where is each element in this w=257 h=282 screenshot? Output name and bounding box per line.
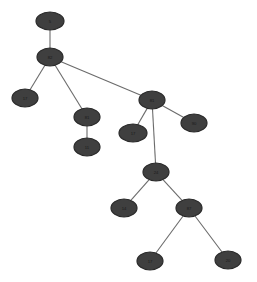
tree-edge (156, 216, 183, 253)
node-ellipse[interactable] (215, 251, 241, 269)
node-ellipse[interactable] (36, 12, 64, 30)
tree-edge (163, 180, 182, 201)
tree-edge (131, 180, 149, 201)
node-ellipse[interactable] (74, 138, 100, 156)
diagram-canvas: 5821781118117902414871720 (0, 0, 257, 282)
tree-node[interactable]: 14 (111, 199, 137, 217)
tree-node[interactable]: 81 (139, 91, 165, 109)
tree-node[interactable]: 87 (176, 199, 202, 217)
node-ellipse[interactable] (181, 114, 207, 132)
tree-node[interactable]: 90 (181, 114, 207, 132)
tree-node[interactable]: 82 (37, 48, 63, 66)
tree-edge (30, 65, 45, 89)
tree-edge (61, 62, 141, 96)
tree-node[interactable]: 17 (12, 89, 38, 107)
tree-edge (195, 216, 222, 252)
node-ellipse[interactable] (12, 89, 38, 107)
tree-graph: 5821781118117902414871720 (0, 0, 257, 282)
tree-edge (152, 109, 155, 163)
tree-node[interactable]: 5 (36, 12, 64, 30)
tree-node[interactable]: 81 (74, 108, 100, 126)
tree-node[interactable]: 17 (119, 124, 147, 142)
node-ellipse[interactable] (111, 199, 137, 217)
node-ellipse[interactable] (139, 91, 165, 109)
node-ellipse[interactable] (37, 48, 63, 66)
tree-node[interactable]: 24 (143, 163, 169, 181)
node-ellipse[interactable] (137, 252, 163, 270)
node-ellipse[interactable] (74, 108, 100, 126)
node-ellipse[interactable] (119, 124, 147, 142)
tree-edge (55, 65, 82, 108)
tree-edge (138, 108, 147, 124)
tree-node[interactable]: 17 (137, 252, 163, 270)
node-ellipse[interactable] (176, 199, 202, 217)
node-ellipse[interactable] (143, 163, 169, 181)
tree-node[interactable]: 11 (74, 138, 100, 156)
tree-edge (162, 106, 184, 118)
tree-node[interactable]: 20 (215, 251, 241, 269)
